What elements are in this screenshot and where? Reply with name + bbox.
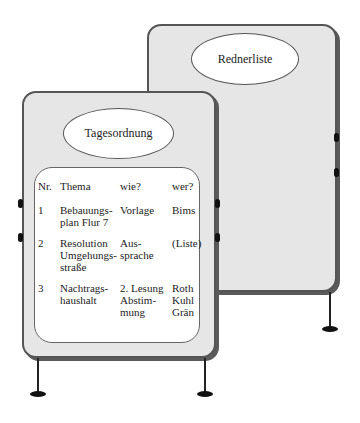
row-thema-line: Umgehungs- <box>60 249 117 261</box>
row-wie: Vorlage <box>120 204 154 216</box>
row-wer-line: Bims <box>172 204 195 216</box>
front-board-knob-left-upper <box>18 199 23 208</box>
tagesordnung-label: Tagesordnung <box>63 108 174 159</box>
header-wer: wer? <box>172 180 193 192</box>
row-thema-line: Bebauungs- <box>60 204 113 216</box>
row-wie-line: Aus- <box>120 237 154 249</box>
tagesordnung-board: Tagesordnung Nr. Thema wie? wer? 1 Bebau… <box>22 91 216 358</box>
front-board-knob-right-lower <box>215 233 220 242</box>
rednerliste-title: Rednerliste <box>218 52 273 67</box>
front-board-knob-left-lower <box>18 233 23 242</box>
row-wie-line: sprache <box>120 249 154 261</box>
row-wer: Roth Kuhl Grän <box>172 282 194 318</box>
row-wie: Aus- sprache <box>120 237 154 261</box>
row-nr: 3 <box>38 282 44 294</box>
row-nr: 1 <box>38 204 44 216</box>
front-board-foot-left <box>30 391 46 397</box>
header-nr: Nr. <box>38 180 52 192</box>
row-wer-line: Grän <box>172 306 194 318</box>
row-wie-line: Vorlage <box>120 204 154 216</box>
row-wie: 2. Lesung Abstim- mung <box>120 282 163 318</box>
row-thema-line: haushalt <box>60 294 108 306</box>
row-wie-line: mung <box>120 306 163 318</box>
back-board-knob-upper <box>334 133 339 142</box>
row-wer: (Liste) <box>172 237 201 249</box>
row-thema: Bebauungs- plan Flur 7 <box>60 204 113 228</box>
row-wer-line: Kuhl <box>172 294 194 306</box>
front-board-foot-right <box>197 391 213 397</box>
row-thema-line: plan Flur 7 <box>60 216 113 228</box>
row-nr: 2 <box>38 237 44 249</box>
row-wer-line: Roth <box>172 282 194 294</box>
back-board-foot-right <box>322 326 338 332</box>
row-thema-line: straße <box>60 261 117 273</box>
front-board-knob-right-upper <box>215 199 220 208</box>
front-board-leg-left <box>37 358 39 394</box>
row-thema: Nachtrags- haushalt <box>60 282 108 306</box>
front-board-leg-right <box>204 358 206 394</box>
row-thema: Resolution Umgehungs- straße <box>60 237 117 273</box>
back-board-knob-lower <box>334 168 339 177</box>
row-wer: Bims <box>172 204 195 216</box>
row-wie-line: 2. Lesung <box>120 282 163 294</box>
row-thema-line: Nachtrags- <box>60 282 108 294</box>
back-board-leg-right <box>329 292 331 328</box>
row-wer-line: (Liste) <box>172 237 201 249</box>
agenda-table: Nr. Thema wie? wer? 1 Bebauungs- plan Fl… <box>34 167 200 343</box>
row-wie-line: Abstim- <box>120 294 163 306</box>
rednerliste-label: Rednerliste <box>191 33 299 85</box>
header-thema: Thema <box>60 180 91 192</box>
row-thema-line: Resolution <box>60 237 117 249</box>
tagesordnung-title: Tagesordnung <box>85 126 153 141</box>
header-wie: wie? <box>120 180 141 192</box>
